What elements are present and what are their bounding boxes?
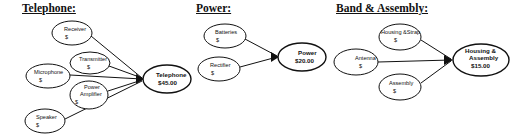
node-label: Receiver (64, 26, 86, 32)
node-assembly: Assembly $ (379, 74, 421, 100)
node-label-line1: Housing & (465, 47, 496, 54)
power-diagram: Batteries $ Rectifier $ Power $20.00 (198, 24, 326, 81)
node-label: Assembly (389, 80, 413, 86)
node-telephone-total: Telephone $45.00 (143, 65, 191, 93)
node-housing-strap: Housing &Strap $ (379, 24, 421, 50)
arrowhead-icon (444, 55, 453, 65)
node-housing-assembly-total: Housing & Assembly $15.00 (453, 44, 509, 76)
node-power-total: Power $20.00 (278, 43, 326, 71)
node-label: Rectifier (210, 62, 231, 68)
node-label-line1: Power (84, 84, 100, 90)
node-label: Power (298, 49, 317, 56)
cost-diagram: Receiver $ Transmitter $ Microphone $ Po… (0, 0, 531, 137)
node-value: $20.00 (295, 57, 314, 64)
node-label-line2: Assembly (469, 54, 499, 61)
band-assembly-diagram: Housing &Strap $ Antenna $ Assembly $ Ho… (334, 24, 509, 100)
edge-assembly-total (421, 61, 451, 83)
node-batteries: Batteries $ (204, 24, 246, 48)
node-rectifier: Rectifier $ (198, 57, 240, 81)
node-label: Batteries (215, 29, 237, 35)
node-label: Transmitter (79, 56, 107, 62)
node-label: Housing &Strap (381, 29, 420, 35)
node-power-amplifier: Power Amplifier $ (70, 81, 108, 109)
node-label: Telephone (156, 71, 187, 78)
node-speaker: Speaker $ (25, 109, 65, 133)
node-value: $15.00 (471, 62, 490, 69)
node-label: Antenna (355, 55, 377, 61)
node-label-line2: Amplifier (80, 91, 102, 97)
node-value: $45.00 (158, 79, 177, 86)
node-label: Microphone (34, 69, 63, 75)
node-receiver: Receiver $ (52, 21, 92, 45)
edge-antenna-total (378, 60, 451, 62)
edge-housing-strap-total (421, 40, 451, 59)
telephone-diagram: Receiver $ Transmitter $ Microphone $ Po… (25, 21, 191, 133)
node-transmitter: Transmitter $ (70, 52, 110, 74)
node-label: Speaker (36, 114, 57, 120)
node-antenna: Antenna $ (334, 49, 378, 75)
edge-microphone-telephone (70, 75, 142, 79)
node-microphone: Microphone $ (26, 64, 70, 88)
